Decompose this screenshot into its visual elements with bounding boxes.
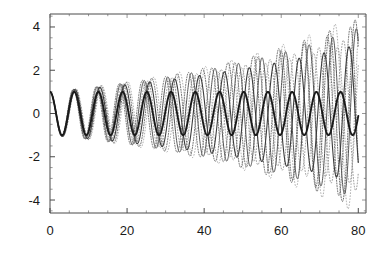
- y-axis-tick-label: 2: [33, 63, 40, 78]
- x-axis-tick-label: 80: [351, 223, 365, 238]
- x-axis-tick-label: 0: [46, 223, 53, 238]
- x-axis-tick-label: 20: [120, 223, 134, 238]
- y-axis-tick-label: -2: [28, 149, 40, 164]
- oscillation-line-chart: 020406080-4-2024: [0, 0, 384, 254]
- chart-container: 020406080-4-2024: [0, 0, 384, 254]
- series-line-outer-envelope-dotted: [50, 24, 358, 209]
- series-line-fast-growth-dotted-a: [50, 20, 358, 202]
- series-line-medium-growth-solid: [50, 29, 358, 194]
- y-axis-tick-label: -4: [28, 193, 40, 208]
- x-axis-tick-label: 40: [197, 223, 211, 238]
- y-axis-tick-label: 0: [33, 106, 40, 121]
- curve-layer: [50, 20, 358, 209]
- y-axis-tick-label: 4: [33, 19, 40, 34]
- x-axis-tick-label: 60: [274, 223, 288, 238]
